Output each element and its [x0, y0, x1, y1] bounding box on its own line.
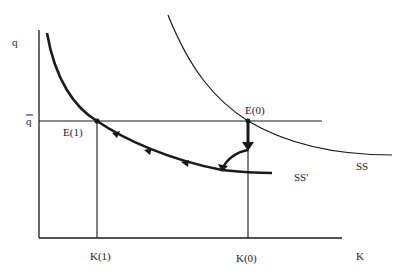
x-axis-label: K — [356, 250, 364, 262]
ss-label: SS — [356, 160, 368, 172]
q-bar-label: q — [26, 115, 32, 127]
y-axis-label: q — [12, 36, 18, 48]
k1-label: K(1) — [90, 250, 111, 263]
ss-prime-arrow-2 — [144, 148, 152, 155]
transition-arc — [223, 150, 248, 168]
ss-curve — [168, 15, 392, 155]
e0-label: E(0) — [245, 104, 265, 117]
e1-point — [94, 118, 99, 123]
phase-diagram: q q E(1) E(0) SS SS' K(1) K(0) K — [0, 0, 413, 278]
e0-point — [246, 119, 251, 124]
k0-label: K(0) — [236, 252, 257, 265]
e1-label: E(1) — [63, 126, 83, 139]
ss-prime-label: SS' — [294, 171, 308, 183]
